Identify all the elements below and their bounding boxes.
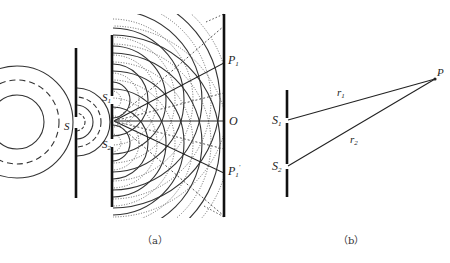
incident-wavefronts [0, 66, 73, 178]
caption-a: （a） [142, 235, 168, 246]
barriers [76, 14, 224, 217]
s1-label: S1 [272, 113, 282, 128]
p1-prime-label: P1′ [227, 163, 241, 179]
figure-b: S1 S2 P r1 r2 （b） [272, 66, 444, 246]
figure-a: S S1 S2 P1 O P1′ （a） [0, 0, 241, 260]
s2-label: S2 [272, 159, 282, 174]
source-label: S [64, 120, 70, 132]
slit1-label: S1 [102, 91, 111, 105]
slit2-label: S2 [102, 138, 112, 152]
r1-label: r1 [337, 86, 345, 100]
caption-b: （b） [338, 235, 364, 246]
double-slit-interference-figure: S S1 S2 P1 O P1′ （a） S1 S2 P r1 r2 （b） [0, 0, 450, 263]
p1-label: P1 [227, 53, 239, 68]
r2-label: r2 [350, 133, 358, 147]
o-label: O [229, 114, 238, 128]
double-slit-wavefronts [0, 0, 229, 260]
path-r1 [288, 79, 435, 120]
p-label: P [436, 66, 444, 78]
path-r2 [288, 79, 435, 166]
